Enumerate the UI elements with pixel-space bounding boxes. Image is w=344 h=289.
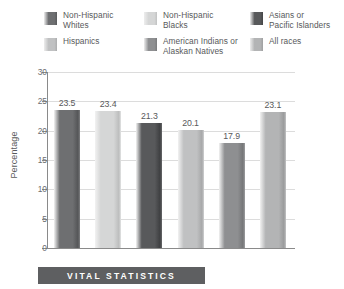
bar-value-label-2: 21.3 — [131, 111, 167, 121]
bar-5 — [260, 112, 286, 248]
gridline-20 — [48, 131, 295, 132]
y-tick-label-10: 10 — [21, 184, 47, 194]
vital-statistics-banner: VITAL STATISTICS — [38, 267, 205, 284]
y-tick-label-30: 30 — [21, 67, 47, 77]
gridline-30 — [48, 72, 295, 73]
bar-value-label-1: 23.4 — [90, 99, 126, 109]
chart-figure: Non-Hispanic WhitesNon-Hispanic BlacksAs… — [0, 0, 344, 289]
bar-value-label-0: 23.5 — [49, 98, 85, 108]
y-tick-label-5: 5 — [21, 214, 47, 224]
x-axis-line — [47, 248, 295, 249]
y-axis-title: Percentage — [9, 105, 19, 205]
vital-statistics-banner-label: VITAL STATISTICS — [67, 271, 176, 281]
bar-value-label-3: 20.1 — [173, 118, 209, 128]
y-tick-label-15: 15 — [21, 155, 47, 165]
gridline-15 — [48, 160, 295, 161]
bar-value-label-5: 23.1 — [255, 100, 291, 110]
bar-4 — [219, 143, 245, 248]
bar-value-label-4: 17.9 — [214, 131, 250, 141]
y-tick-label-25: 25 — [21, 96, 47, 106]
y-tick-label-20: 20 — [21, 126, 47, 136]
plot-area: Percentage 05101520253023.523.421.320.11… — [0, 0, 344, 289]
bar-0 — [54, 110, 80, 248]
y-tick-label-0: 0 — [21, 243, 47, 253]
bar-2 — [136, 123, 162, 248]
bar-1 — [95, 111, 121, 248]
bar-3 — [178, 130, 204, 248]
gridline-10 — [48, 189, 295, 190]
gridline-5 — [48, 219, 295, 220]
